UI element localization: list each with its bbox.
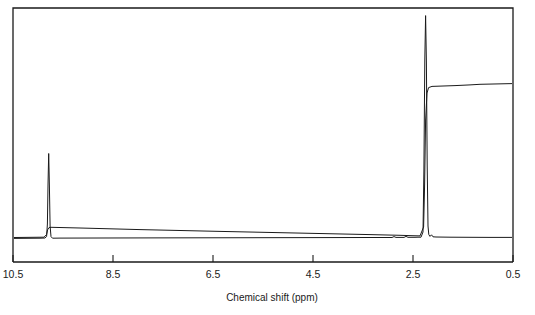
- spectrum-trace: [14, 16, 512, 239]
- x-tick-label-0: 10.5: [3, 268, 24, 280]
- nmr-spectrum-figure: 10.5 8.5 6.5 4.5 2.5 0.5 Chemical shift …: [0, 0, 535, 315]
- x-tick-label-1: 8.5: [106, 268, 121, 280]
- x-axis-ticks: [13, 255, 513, 262]
- spectrum-plot: 10.5 8.5 6.5 4.5 2.5 0.5 Chemical shift …: [0, 0, 535, 315]
- x-tick-label-3: 4.5: [306, 268, 321, 280]
- integration-trace: [14, 84, 512, 238]
- x-axis-title: Chemical shift (ppm): [226, 292, 318, 303]
- x-tick-label-4: 2.5: [406, 268, 421, 280]
- x-tick-label-5: 0.5: [506, 268, 521, 280]
- plot-frame: [13, 8, 513, 262]
- x-tick-label-2: 6.5: [206, 268, 221, 280]
